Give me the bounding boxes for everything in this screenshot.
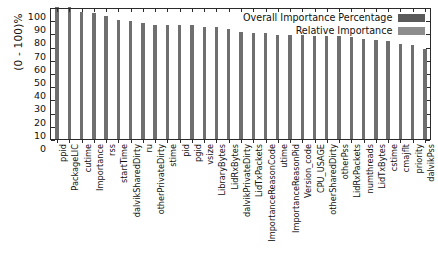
x-axis-tick-mark [229,139,230,143]
y-axis-tick-label: 30 [34,104,51,114]
bar [178,25,181,139]
bar [399,44,402,139]
y-axis-tick-mark [51,87,55,88]
x-axis-tick-label: cutime [84,144,92,172]
x-axis-tick-label: pgid [194,144,202,162]
y-axis-tick-label: 70 [34,51,51,61]
bar [325,36,328,139]
x-axis-tick-mark [327,139,328,143]
plot-frame-top [50,8,430,9]
x-axis-tick-mark [376,139,377,143]
legend-item-label: Overall Importance Percentage [243,12,392,23]
bar [423,49,426,139]
bar [92,13,95,139]
x-axis-tick-mark [278,139,279,143]
x-axis-tick-mark [106,139,107,143]
x-axis-tick-label: pid [182,144,190,157]
y-axis-tick-label: 60 [34,65,51,75]
x-axis-tick-label: priority [415,144,423,174]
legend-item-label: Relative Importance [296,25,393,36]
x-axis-tick-labels: ppidPackageLICcutimeImportancerssstartTi… [50,144,430,256]
plot-frame-right [430,8,431,140]
y-axis-tick-label: 10 [34,131,51,141]
y-axis-tick-mark [51,34,55,35]
y-axis-tick-mark [51,21,55,22]
x-axis-tick-label: numthreads [366,144,374,193]
x-axis-tick-mark [82,139,83,143]
x-axis-tick-label: ppid [59,144,67,162]
x-axis-tick-mark [253,139,254,143]
bar [215,27,218,139]
bar [301,35,304,139]
x-axis-tick-label: otherPss [341,144,349,179]
x-axis-tick-label: dalvikPrivateDirty [243,144,251,217]
bar [141,23,144,139]
x-axis-tick-mark [57,139,58,143]
bar [227,29,230,139]
y-axis-tick-label: 80 [34,38,51,48]
y-axis-tick-mark-right [426,140,430,141]
x-axis-tick-label: LidTxBytes [378,144,386,189]
x-axis-tick-mark [266,139,267,143]
x-axis-tick-label: otherSharedDirty [329,144,337,215]
x-axis-tick-label: cmajflt [402,144,410,172]
bar [129,21,132,139]
bar [264,33,267,139]
x-axis-tick-label: cstime [390,144,398,171]
y-axis-tick-mark [51,140,55,141]
legend-color-swatch [398,14,425,22]
x-axis-tick-label: LibraryBytes [218,144,226,196]
x-axis-tick-mark [204,139,205,143]
x-axis-tick-label: Importance [96,144,104,191]
x-axis-tick-label: ImportanceReasonPid [292,144,300,233]
x-axis-tick-label: otherPrivateDirty [157,144,165,214]
x-axis-tick-label: vsize [206,144,214,165]
bar [386,41,389,139]
x-axis-tick-mark [131,139,132,143]
chart-legend: Overall Importance PercentageRelative Im… [243,11,425,37]
y-axis-tick-mark [51,74,55,75]
y-axis-tick-mark [51,48,55,49]
bar [80,12,83,139]
bar [55,7,58,139]
x-axis-tick-mark [216,139,217,143]
x-axis-tick-mark [413,139,414,143]
x-axis-tick-label: dalvikPss [427,144,435,182]
bar [362,39,365,139]
y-axis-tick-mark [51,61,55,62]
x-axis-tick-label: LidRxBytes [231,144,239,190]
y-axis-title: (0 - 100)% [12,0,24,92]
x-axis-tick-label: ru [145,144,153,153]
bar [117,20,120,139]
bar [350,37,353,139]
bar-chart: (0 - 100)% 0102030405060708090100 Overal… [0,0,438,261]
bar [276,35,279,139]
x-axis-tick-mark [351,139,352,143]
bar [252,33,255,139]
x-axis-tick-mark [180,139,181,143]
y-axis-tick-label: 90 [34,25,51,35]
x-axis-tick-mark [302,139,303,143]
x-axis-tick-mark [69,139,70,143]
bar [190,25,193,139]
bar [166,25,169,139]
y-axis-tick-label: 20 [34,117,51,127]
x-axis-tick-label: PackageLIC [71,144,79,191]
x-axis-tick-mark [364,139,365,143]
x-axis-tick-mark [118,139,119,143]
x-axis-tick-mark [167,139,168,143]
bar [288,35,291,139]
x-axis-tick-mark [290,139,291,143]
y-axis-tick-label: 40 [34,91,51,101]
legend-color-swatch [398,27,425,35]
bar [313,36,316,139]
x-axis-tick-label: ImportanceReasonCode [268,144,276,242]
x-axis-tick-label: dalvikSharedDirty [133,144,141,217]
x-axis-tick-label: rss [108,144,116,156]
x-axis-tick-mark [339,139,340,143]
x-axis-tick-label: Version_code [304,144,312,198]
x-axis-tick-label: LidTxPackets [255,144,263,197]
bar [104,16,107,139]
legend-item: Overall Importance Percentage [243,11,425,24]
y-axis-tick-mark [51,127,55,128]
